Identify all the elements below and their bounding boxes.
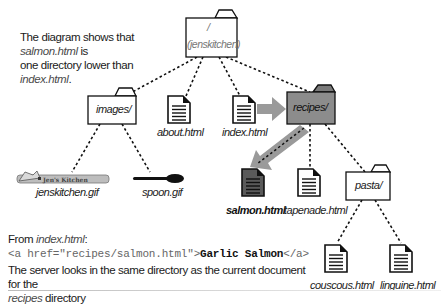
spoon-icon (133, 174, 184, 183)
jenskitchen-gif-text: Jen's Kitchen (42, 176, 88, 184)
example-note: The server looks in the same directory a… (8, 263, 308, 305)
root-folder-name: / (207, 21, 210, 33)
divider (8, 290, 441, 291)
about-doc-icon (168, 96, 190, 123)
code-close-tag: </a> (283, 248, 309, 260)
index-file-label: index.html (222, 126, 267, 138)
salmon-file-label: salmon.html (226, 204, 285, 216)
from-prefix: From (8, 233, 36, 245)
couscous-doc-icon (325, 245, 347, 272)
images-folder-label: images/ (96, 103, 131, 115)
example-code: <a href="recipes/salmon.html">Garlic Sal… (8, 248, 309, 260)
code-open-tag: <a href="recipes/salmon.html"> (8, 248, 200, 260)
example-from-line: From index.html: (8, 232, 87, 246)
from-suffix: : (84, 233, 87, 245)
arrow-right-icon (257, 97, 286, 121)
from-filename: index.html (36, 233, 84, 245)
code-link-text: Garlic Salmon (200, 248, 283, 260)
tapenade-file-label: tapenade.html (284, 204, 347, 216)
note-directory: recipes (8, 292, 42, 304)
tapenade-doc-icon (298, 169, 320, 196)
salmon-doc-icon (242, 169, 264, 196)
jenskitchen-gif-thumbnail: Jen's Kitchen (17, 171, 109, 184)
note-text: directory (42, 292, 85, 304)
linguine-doc-icon (390, 245, 412, 272)
pasta-folder-label: pasta/ (355, 179, 382, 191)
index-doc-icon (233, 96, 255, 123)
root-folder-subname: (jenskitchen) (187, 38, 240, 50)
spoon-gif-label: spoon.gif (142, 186, 182, 198)
about-file-label: about.html (157, 126, 203, 138)
recipes-folder-label: recipes/ (293, 101, 328, 113)
jenskitchen-gif-label: jenskitchen.gif (36, 186, 98, 198)
note-text: The server looks in the same directory a… (8, 264, 305, 290)
